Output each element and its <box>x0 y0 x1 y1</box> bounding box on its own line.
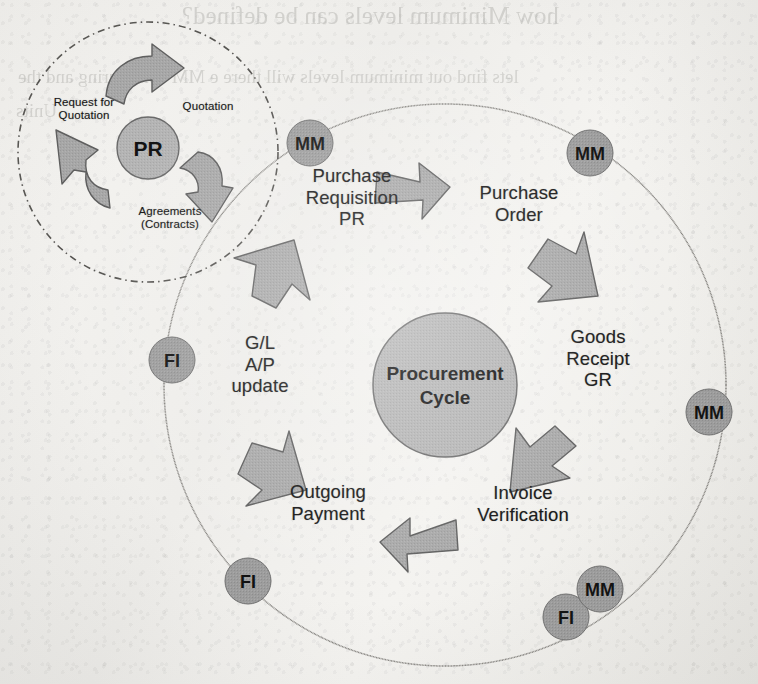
label-request-for-quotation: Request for Quotation <box>28 96 140 123</box>
arrow-to-purchase-requisition <box>234 240 310 308</box>
label-purchase-requisition: Purchase Requisition PR <box>284 165 420 230</box>
badge-fi-bottom-right-label: FI <box>558 608 574 628</box>
procurement-center-label-line1: Procurement <box>386 363 504 384</box>
badge-mm-top-left[interactable]: MM <box>287 120 333 166</box>
label-invoice-verification: Invoice Verification <box>444 482 602 525</box>
arrow-rfq-to-quotation <box>106 44 184 104</box>
arrow-to-outgoing-payment <box>380 518 458 572</box>
label-gl-ap-update: G/L A/P update <box>205 332 315 397</box>
label-purchase-order: Purchase Order <box>452 182 586 225</box>
badge-mm-bottom-right[interactable]: MM <box>577 566 623 612</box>
badge-mm-top-right[interactable]: MM <box>567 130 613 176</box>
diagram-page: how Minimum levels can be defined? lets … <box>0 0 758 684</box>
badge-mm-top-right-label: MM <box>575 144 605 164</box>
badge-mm-top-left-label: MM <box>295 134 325 154</box>
arrow-to-goods-receipt <box>528 232 598 302</box>
badge-fi-left-label: FI <box>164 351 180 371</box>
badge-fi-left[interactable]: FI <box>149 337 195 383</box>
badge-mm-right-label: MM <box>694 403 724 423</box>
label-outgoing-payment: Outgoing Payment <box>255 481 401 524</box>
badge-fi-bottom-left-label: FI <box>240 572 256 592</box>
badge-mm-right[interactable]: MM <box>686 389 732 435</box>
procurement-center-circle <box>373 313 517 457</box>
procurement-center-label-line2: Cycle <box>420 387 471 408</box>
label-quotation: Quotation <box>160 100 256 113</box>
label-agreements-contracts: Agreements (Contracts) <box>114 205 226 232</box>
arrow-agreements-to-rfq <box>56 130 110 208</box>
pr-center-label: PR <box>133 137 162 160</box>
badge-fi-bottom-left[interactable]: FI <box>225 558 271 604</box>
label-goods-receipt: Goods Receipt GR <box>540 326 656 391</box>
badge-mm-bottom-right-label: MM <box>585 580 615 600</box>
